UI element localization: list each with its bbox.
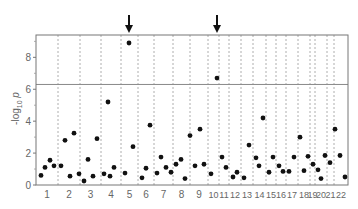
data-point [39, 173, 44, 178]
y-axis-label-main: -log [10, 108, 21, 125]
x-tick-label-chr-22: 22 [336, 190, 346, 200]
data-point [202, 162, 207, 167]
data-point [298, 135, 303, 140]
data-point [328, 160, 333, 165]
x-tick-label-chr-21: 21 [325, 190, 335, 200]
data-point [59, 163, 64, 168]
data-point [242, 175, 247, 180]
down-arrow-icon [213, 15, 221, 33]
data-point [281, 169, 286, 174]
data-point [188, 133, 193, 138]
x-tick-label-chr-9: 9 [196, 189, 202, 200]
data-point [155, 171, 160, 176]
x-tick-label-chr-5: 5 [127, 189, 133, 200]
down-arrow-icon [125, 15, 133, 33]
data-point [140, 175, 145, 180]
data-point [106, 100, 111, 105]
data-point [108, 174, 113, 179]
x-tick-label-chr-1: 1 [44, 189, 50, 200]
data-point [164, 165, 169, 170]
y-axis-label-p: p [10, 92, 21, 100]
plot-frame [36, 35, 348, 185]
x-tick-label-chr-12: 12 [230, 190, 240, 200]
data-point [95, 136, 100, 141]
y-tick-label: 2 [25, 148, 31, 159]
data-point [198, 127, 203, 132]
data-point [287, 169, 292, 174]
data-point [231, 175, 236, 180]
data-point [254, 155, 259, 160]
data-point [127, 41, 132, 46]
y-tick-label: 6 [25, 84, 31, 95]
data-point [323, 153, 328, 158]
data-point [292, 155, 297, 160]
data-point [224, 165, 229, 170]
annotation-arrows [125, 15, 221, 33]
data-point [271, 155, 276, 160]
x-tick-label-chr-13: 13 [242, 190, 252, 200]
x-tick-label-chr-3: 3 [88, 189, 94, 200]
data-point [48, 158, 53, 163]
x-tick-label-chr-16: 16 [276, 190, 286, 200]
data-point [183, 176, 188, 181]
data-point [102, 171, 107, 176]
y-tick-label: 8 [25, 52, 31, 63]
data-points [39, 41, 348, 184]
data-point [311, 162, 316, 167]
data-point [77, 171, 82, 176]
x-tick-label-chr-7: 7 [161, 189, 167, 200]
data-point [52, 163, 57, 168]
x-tick-label-chr-14: 14 [254, 190, 264, 200]
data-point [235, 170, 240, 175]
data-point [82, 179, 87, 184]
x-tick-label-chr-8: 8 [179, 189, 185, 200]
data-point [247, 143, 252, 148]
data-point [174, 162, 179, 167]
data-point [319, 176, 324, 181]
data-point [112, 165, 117, 170]
y-axis-ticks: 02468 [25, 41, 36, 191]
data-point [72, 131, 77, 136]
data-point [343, 175, 348, 180]
data-point [43, 165, 48, 170]
data-point [63, 138, 68, 143]
data-point [338, 153, 343, 158]
data-point [68, 174, 73, 179]
data-point [123, 171, 128, 176]
x-tick-label-chr-6: 6 [143, 189, 149, 200]
data-point [193, 163, 198, 168]
x-tick-label-chr-15: 15 [266, 190, 276, 200]
x-tick-label-chr-4: 4 [108, 189, 114, 200]
x-tick-label-chr-10: 10 [208, 190, 218, 200]
y-axis-label-subscript: 10 [16, 100, 23, 108]
data-point [267, 170, 272, 175]
data-point [169, 170, 174, 175]
data-point [302, 168, 307, 173]
data-point [257, 163, 262, 168]
chromosome-boundaries [58, 35, 334, 185]
data-point [159, 155, 164, 160]
data-point [144, 166, 149, 171]
data-point [209, 171, 214, 176]
data-point [179, 157, 184, 162]
x-tick-label-chr-17: 17 [287, 190, 297, 200]
data-point [215, 76, 220, 81]
data-point [148, 123, 153, 128]
y-axis-label: -log10 p [10, 85, 23, 133]
x-tick-label-chr-2: 2 [66, 189, 72, 200]
data-point [277, 163, 282, 168]
data-point [333, 127, 338, 132]
data-point [316, 167, 321, 172]
data-point [306, 154, 311, 159]
x-axis-labels: 12345678910111213141516171819202122 [44, 189, 346, 200]
manhattan-plot: 02468 1234567891011121314151617181920212… [0, 0, 358, 209]
y-tick-label: 0 [25, 180, 31, 191]
data-point [220, 155, 225, 160]
data-point [86, 157, 91, 162]
data-point [91, 174, 96, 179]
x-tick-label-chr-11: 11 [219, 190, 228, 200]
data-point [131, 144, 136, 149]
y-tick-label: 4 [25, 116, 31, 127]
data-point [261, 116, 266, 121]
